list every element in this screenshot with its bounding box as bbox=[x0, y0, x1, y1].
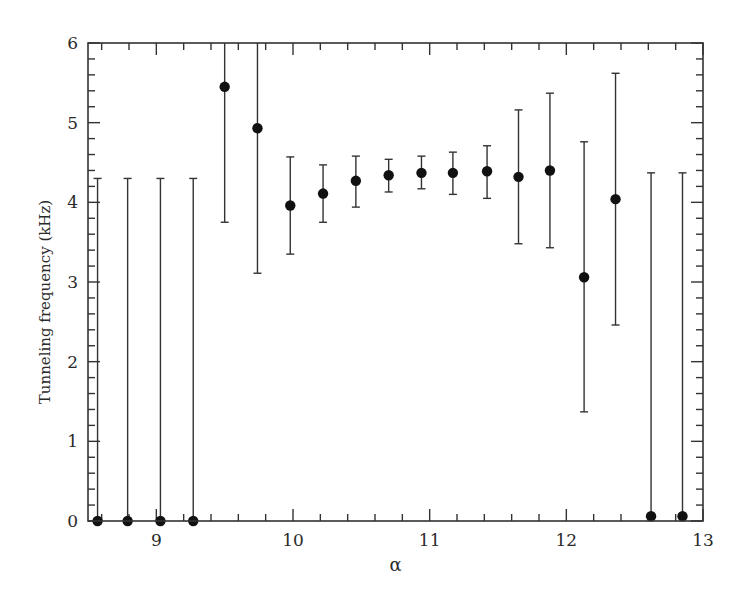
data-point bbox=[416, 168, 426, 178]
errorbar-chart: 910111213 0123456 α Tunneling frequency … bbox=[0, 0, 745, 602]
y-tick-label: 4 bbox=[67, 192, 78, 212]
x-tick-label: 12 bbox=[556, 530, 578, 550]
x-axis-title: α bbox=[389, 554, 401, 575]
x-tick-label: 13 bbox=[692, 530, 714, 550]
data-point bbox=[646, 511, 656, 521]
y-tick-label: 2 bbox=[67, 352, 78, 372]
error-bars bbox=[94, 43, 687, 521]
data-point bbox=[545, 165, 555, 175]
x-tick-labels: 910111213 bbox=[151, 530, 714, 550]
data-point bbox=[383, 170, 393, 180]
data-point bbox=[610, 194, 620, 204]
y-axis-title: Tunneling frequency (kHz) bbox=[36, 200, 54, 404]
y-tick-labels: 0123456 bbox=[67, 33, 78, 531]
major-ticks bbox=[88, 43, 703, 521]
data-points bbox=[92, 82, 687, 527]
y-tick-label: 5 bbox=[67, 113, 78, 133]
data-point bbox=[351, 176, 361, 186]
data-point bbox=[318, 188, 328, 198]
data-point bbox=[252, 123, 262, 133]
data-point bbox=[219, 82, 229, 92]
y-tick-label: 3 bbox=[67, 272, 78, 292]
y-tick-label: 1 bbox=[67, 431, 78, 451]
x-tick-label: 10 bbox=[282, 530, 304, 550]
x-tick-label: 11 bbox=[419, 530, 441, 550]
x-tick-label: 9 bbox=[151, 530, 162, 550]
plot-frame bbox=[88, 43, 703, 521]
minor-ticks bbox=[88, 43, 703, 521]
data-point bbox=[513, 172, 523, 182]
data-point bbox=[579, 272, 589, 282]
data-point bbox=[482, 166, 492, 176]
y-tick-label: 6 bbox=[67, 33, 78, 53]
data-point bbox=[285, 200, 295, 210]
y-tick-label: 0 bbox=[67, 511, 78, 531]
data-point bbox=[677, 511, 687, 521]
data-point bbox=[448, 168, 458, 178]
